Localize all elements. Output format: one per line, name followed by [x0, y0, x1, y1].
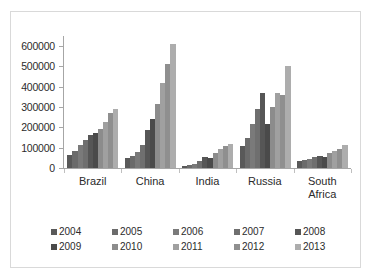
y-axis-tick-mark [59, 148, 63, 149]
y-axis-tick-labels: 0100000200000300000400000500000600000 [11, 36, 59, 168]
legend-label: 2007 [242, 226, 264, 237]
y-axis-tick-label: 500000 [21, 60, 55, 72]
legend-swatch-icon [234, 229, 240, 235]
x-axis-category-label: Russia [236, 175, 293, 188]
legend-item-2007[interactable]: 2007 [234, 226, 264, 237]
y-axis-tick-label: 300000 [21, 101, 55, 113]
y-axis-tick-mark [59, 168, 63, 169]
legend-item-2012[interactable]: 2012 [234, 241, 264, 252]
y-axis-tick-mark [59, 66, 63, 67]
legend-label: 2011 [181, 241, 203, 252]
x-axis-category-label: South Africa [294, 175, 351, 201]
bar-group [297, 36, 348, 168]
legend-item-2010[interactable]: 2010 [112, 241, 142, 252]
chart-legend: 2004200520062007200820092010201120122013 [51, 226, 356, 258]
plot-area: 0100000200000300000400000500000600000 [11, 12, 362, 172]
x-axis-category-label: Brazil [64, 175, 121, 188]
y-axis-tick-mark [59, 127, 63, 128]
bars-layer [64, 36, 351, 168]
bar-group [240, 36, 291, 168]
bar [228, 144, 233, 168]
x-axis-separator [179, 169, 180, 173]
legend-label: 2005 [120, 226, 142, 237]
legend-swatch-icon [295, 244, 301, 250]
bar [285, 66, 290, 168]
legend-label: 2004 [59, 226, 81, 237]
legend-swatch-icon [173, 229, 179, 235]
bar [113, 109, 118, 168]
legend-swatch-icon [112, 229, 118, 235]
bar [170, 44, 175, 168]
bar-group [125, 36, 176, 168]
legend-swatch-icon [112, 244, 118, 250]
y-axis-tick-label: 400000 [21, 81, 55, 93]
legend-item-2013[interactable]: 2013 [295, 241, 325, 252]
legend-label: 2008 [303, 226, 325, 237]
bar-group [182, 36, 233, 168]
x-axis-separator [294, 169, 295, 173]
legend-item-2004[interactable]: 2004 [51, 226, 81, 237]
legend-item-2008[interactable]: 2008 [295, 226, 325, 237]
legend-label: 2010 [120, 241, 142, 252]
x-axis-separator [236, 169, 237, 173]
legend-label: 2006 [181, 226, 203, 237]
legend-item-2005[interactable]: 2005 [112, 226, 142, 237]
x-axis-separator [121, 169, 122, 173]
y-axis-tick-mark [59, 87, 63, 88]
y-axis-tick-mark [59, 46, 63, 47]
legend-label: 2013 [303, 241, 325, 252]
legend-swatch-icon [51, 229, 57, 235]
x-axis-category-labels: BrazilChinaIndiaRussiaSouth Africa [64, 175, 351, 209]
legend-label: 2009 [59, 241, 81, 252]
y-axis-tick-label: 200000 [21, 121, 55, 133]
y-axis-tick-label: 600000 [21, 40, 55, 52]
legend-item-2006[interactable]: 2006 [173, 226, 203, 237]
legend-swatch-icon [173, 244, 179, 250]
y-axis-tick-label: 100000 [21, 142, 55, 154]
bar-group [67, 36, 118, 168]
x-axis-category-label: China [121, 175, 178, 188]
legend-swatch-icon [295, 229, 301, 235]
legend-swatch-icon [51, 244, 57, 250]
y-axis-tick-label: 0 [49, 162, 55, 174]
x-axis-separator [64, 169, 65, 173]
x-axis-separator [351, 169, 352, 173]
x-axis-category-label: India [179, 175, 236, 188]
x-axis-line [63, 168, 351, 169]
y-axis-tick-mark [59, 107, 63, 108]
bar [342, 145, 347, 168]
legend-item-2011[interactable]: 2011 [173, 241, 203, 252]
legend-swatch-icon [234, 244, 240, 250]
legend-item-2009[interactable]: 2009 [51, 241, 81, 252]
chart-container: 0100000200000300000400000500000600000 Br… [10, 11, 361, 268]
legend-label: 2012 [242, 241, 264, 252]
